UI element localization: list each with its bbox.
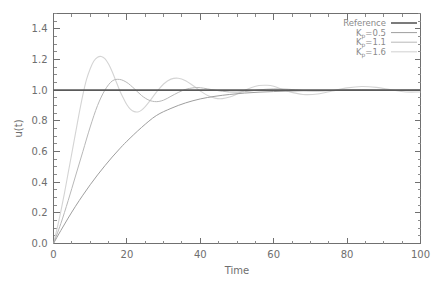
y-tick-label: 0.0	[32, 238, 48, 249]
plot-canvas: 0204060801000.00.20.40.60.81.01.21.4Time…	[0, 0, 438, 283]
y-tick-label: 1.0	[32, 85, 48, 96]
y-tick-label: 1.4	[32, 23, 48, 34]
x-tick-label: 0	[50, 249, 56, 260]
y-tick-label: 0.4	[32, 177, 48, 188]
legend-label-0: Reference	[343, 18, 386, 28]
x-tick-label: 60	[267, 249, 280, 260]
y-tick-label: 1.2	[32, 54, 48, 65]
legend-label-3: Kp=1.6	[356, 47, 386, 59]
y-axis-title: u(t)	[13, 119, 24, 137]
y-tick-label: 0.6	[32, 146, 48, 157]
curves-group	[54, 56, 421, 243]
y-tick-label: 0.2	[32, 207, 48, 218]
y-tick-label: 0.8	[32, 115, 48, 126]
x-axis-title: Time	[224, 265, 249, 276]
series-line-kp-0-5	[54, 90, 421, 243]
x-tick-label: 100	[411, 249, 430, 260]
chart-figure: 0204060801000.00.20.40.60.81.01.21.4Time…	[0, 0, 438, 283]
x-tick-label: 80	[341, 249, 354, 260]
x-tick-label: 40	[194, 249, 207, 260]
x-tick-label: 20	[121, 249, 134, 260]
